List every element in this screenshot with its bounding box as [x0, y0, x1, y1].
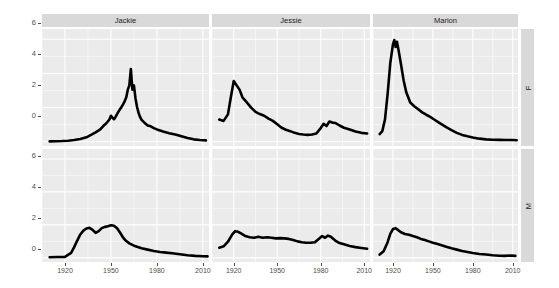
panel-jessie-f — [212, 29, 370, 146]
chart-root: Number of People (thousands) 6 4 2 0 6 4… — [0, 0, 559, 288]
x-tick-label: 2010 — [190, 267, 216, 275]
strip-row-m: M — [521, 149, 534, 262]
y-tick-mark-f-4 — [38, 54, 41, 55]
x-tick-label: 1950 — [98, 267, 124, 275]
y-tick-label-f-2: 2 — [16, 81, 36, 89]
panel-jackie-m-plot — [42, 149, 209, 262]
strip-row-f: F — [521, 29, 534, 146]
strip-column-jackie: Jackie — [42, 14, 209, 27]
y-tick-mark-f-6 — [38, 23, 41, 24]
y-axis-title: Number of People (thousands) — [0, 0, 15, 16]
panel-jessie-m-plot — [212, 149, 370, 262]
x-tick-label: 1980 — [460, 267, 486, 275]
panel-marion-f-plot — [373, 29, 518, 146]
x-tick-mark — [393, 263, 394, 266]
y-tick-label-m-6: 6 — [16, 152, 36, 160]
x-tick-label: 1950 — [420, 267, 446, 275]
y-tick-label-f-4: 4 — [16, 50, 36, 58]
panel-jackie-f — [42, 29, 209, 146]
y-tick-label-m-2: 2 — [16, 214, 36, 222]
strip-column-marion: Marion — [373, 14, 518, 27]
panel-jessie-m — [212, 149, 370, 262]
y-tick-mark-m-4 — [38, 187, 41, 188]
y-tick-mark-m-0 — [38, 249, 41, 250]
x-tick-label: 2010 — [500, 267, 526, 275]
x-tick-mark — [111, 263, 112, 266]
y-tick-label-f-0: 0 — [16, 112, 36, 120]
x-tick-mark — [234, 263, 235, 266]
x-tick-label: 1920 — [52, 267, 78, 275]
panel-marion-m-plot — [373, 149, 518, 262]
x-tick-mark — [473, 263, 474, 266]
x-tick-label: 1920 — [221, 267, 247, 275]
x-tick-mark — [203, 263, 204, 266]
panel-marion-m — [373, 149, 518, 262]
y-tick-label-m-4: 4 — [16, 183, 36, 191]
panel-jackie-f-plot — [42, 29, 209, 146]
x-tick-mark — [321, 263, 322, 266]
x-tick-label: 1980 — [144, 267, 170, 275]
panel-jessie-f-plot — [212, 29, 370, 146]
y-tick-mark-m-2 — [38, 218, 41, 219]
y-tick-mark-f-2 — [38, 85, 41, 86]
x-tick-label: 1950 — [264, 267, 290, 275]
y-tick-mark-f-0 — [38, 116, 41, 117]
x-tick-mark — [157, 263, 158, 266]
panel-marion-f — [373, 29, 518, 146]
strip-column-jessie: Jessie — [212, 14, 370, 27]
x-tick-mark — [513, 263, 514, 266]
x-tick-mark — [364, 263, 365, 266]
strip-row-f-label: F — [523, 85, 532, 90]
strip-row-m-label: M — [523, 202, 532, 208]
panel-jackie-m — [42, 149, 209, 262]
x-tick-mark — [277, 263, 278, 266]
x-tick-mark — [65, 263, 66, 266]
x-tick-label: 1920 — [380, 267, 406, 275]
x-tick-label: 1980 — [308, 267, 334, 275]
x-tick-mark — [433, 263, 434, 266]
x-tick-label: 2010 — [351, 267, 377, 275]
y-tick-mark-m-6 — [38, 156, 41, 157]
y-tick-label-m-0: 0 — [16, 245, 36, 253]
y-tick-label-f-6: 6 — [16, 19, 36, 27]
